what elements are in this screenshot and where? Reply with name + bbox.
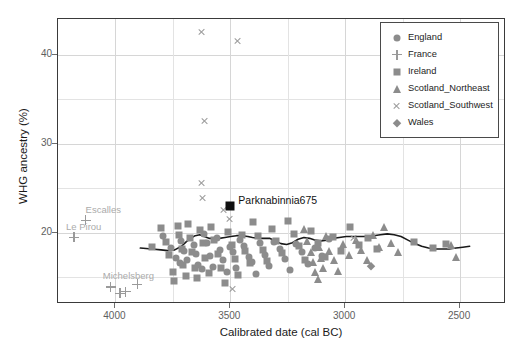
data-point-ireland [197,227,204,234]
data-point-ireland [207,224,214,231]
highlighted-data-point [226,202,235,211]
x-tick-label: 2500 [429,310,489,321]
data-point-ireland [429,244,436,251]
x-tick-mark [459,303,460,308]
ex-icon [386,97,408,114]
triangle-icon [386,80,408,97]
data-point-england [287,267,294,274]
data-point-ireland [171,277,178,284]
data-point-ireland [254,233,261,240]
legend-item-label: France [408,46,437,63]
legend-item-ireland[interactable]: Ireland [386,63,493,80]
data-point-ireland [180,261,187,268]
data-point-ireland [179,245,186,252]
gridline-horizontal-minor [58,188,504,189]
x-tick-mark [114,303,115,308]
legend-item-scotland_southwest[interactable]: Scotland_Southwest [386,97,493,114]
data-point-scotland_southwest [198,179,206,187]
x-tick-label: 4000 [84,310,144,321]
x-axis-title: Calibrated date (cal BC) [57,326,505,338]
legend: EnglandFranceIrelandScotland_NortheastSc… [380,22,499,138]
data-point-scotland_northeast [345,251,353,259]
data-point-ireland [194,275,201,282]
data-point-ireland [174,222,181,229]
data-point-ireland [169,268,176,275]
data-point-scotland_southwest [233,37,241,45]
data-point-scotland_northeast [334,267,342,275]
data-point-ireland [264,258,271,265]
data-point-france [69,232,79,242]
data-point-scotland_northeast [307,248,315,256]
data-point-scotland_southwest [229,285,237,293]
x-tick-label: 3500 [199,310,259,321]
data-point-scotland_northeast [319,264,327,272]
data-point-ireland [302,256,309,263]
gridline-vertical [115,19,116,302]
x-tick-mark [229,303,230,308]
data-point-ireland [235,271,242,278]
data-point-ireland [175,232,182,239]
data-point-ireland [329,234,336,241]
legend-item-scotland_northeast[interactable]: Scotland_Northeast [386,80,493,97]
chart-root: WHG ancestry (%) Calibrated date (cal BC… [0,0,518,347]
gridline-horizontal [58,233,504,234]
data-point-scotland_northeast [309,258,317,266]
data-point-ireland [199,239,206,246]
plus-icon [386,46,408,63]
data-point-scotland_northeast [380,223,388,231]
diamond-icon [386,114,408,131]
y-tick-label: 40 [41,49,52,59]
legend-item-label: Scotland_Northeast [408,80,490,97]
data-point-scotland_northeast [339,240,347,248]
data-point-scotland_northeast [317,254,325,262]
data-point-scotland_southwest [349,234,357,242]
data-point-scotland_southwest [198,28,206,36]
data-point-scotland_northeast [315,243,323,251]
data-point-scotland_northeast [375,243,383,251]
x-tick-mark [344,303,345,308]
data-point-ireland [284,218,291,225]
data-point-ireland [228,242,235,249]
legend-item-label: Scotland_Southwest [408,97,493,114]
site-annotation-label: Escalles [86,204,121,215]
data-point-ireland [411,238,418,245]
data-point-scotland_northeast [452,253,460,261]
data-point-ireland [268,226,275,233]
y-tick-label: 30 [41,138,52,148]
data-point-ireland [246,260,253,267]
data-point-ireland [149,244,156,251]
data-point-scotland_northeast [357,246,365,254]
data-point-ireland [163,238,170,245]
circle-icon [386,29,408,46]
data-point-ireland [290,230,297,237]
data-point-ireland [279,250,286,257]
data-point-scotland_northeast [303,237,311,245]
gridline-horizontal [58,144,504,145]
legend-item-label: Wales [408,114,434,131]
highlighted-point-label: Parknabinnia675 [238,194,317,206]
x-tick-label: 3000 [314,310,374,321]
data-point-ireland [166,252,173,259]
legend-item-france[interactable]: France [386,46,493,63]
data-point-scotland_northeast [387,239,395,247]
data-point-ireland [273,237,280,244]
data-point-scotland_northeast [314,275,322,283]
data-point-ireland [242,247,249,254]
data-point-scotland_northeast [394,248,402,256]
data-point-england [190,242,197,249]
data-point-scotland_northeast [369,231,377,239]
data-point-ireland [238,231,245,238]
data-point-ireland [211,236,218,243]
data-point-ireland [218,265,225,272]
data-point-ireland [184,220,191,227]
data-point-ireland [182,273,189,280]
data-point-ireland [250,219,257,226]
legend-item-england[interactable]: England [386,29,493,46]
legend-item-wales[interactable]: Wales [386,114,493,131]
legend-item-label: England [408,29,442,46]
data-point-france [132,279,142,289]
data-point-ireland [189,249,196,256]
legend-item-label: Ireland [408,63,436,80]
data-point-scotland_northeast [325,247,333,255]
site-annotation-label: Le Pirou [66,221,101,232]
